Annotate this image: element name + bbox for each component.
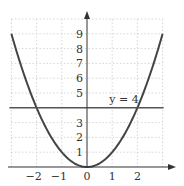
y-tick-label: 6 [76, 72, 83, 85]
x-tick-label: 2 [134, 170, 141, 183]
x-tick-label: −1 [51, 170, 67, 183]
y-tick-label: 2 [76, 131, 83, 144]
y-tick-label: 7 [76, 57, 83, 70]
x-tick-label: 0 [84, 170, 91, 183]
y-tick-label: 5 [76, 87, 83, 100]
chart: −2−101212356789y = 4 [0, 0, 184, 186]
x-tick-label: −2 [25, 170, 41, 183]
y-tick-label: 8 [76, 43, 83, 56]
y-axis-arrow-icon [84, 11, 90, 19]
axes [8, 11, 176, 170]
x-tick-label: 1 [109, 170, 116, 183]
x-axis-arrow-icon [168, 164, 176, 170]
tick-labels: −2−101212356789y = 4 [25, 28, 140, 183]
line-annotation-label: y = 4 [108, 93, 138, 106]
y-tick-label: 9 [76, 28, 83, 41]
y-tick-label: 1 [76, 146, 83, 159]
y-tick-label: 3 [76, 117, 83, 130]
